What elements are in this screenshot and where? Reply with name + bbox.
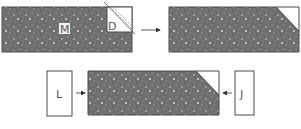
center-clipped-block [88,71,219,115]
label-l: L [56,88,63,101]
label-m: M [60,23,70,36]
step1-group: M D [2,2,135,52]
clipped-block [169,7,299,52]
step3-group: L J [47,71,254,116]
diagram-canvas: M D L J [0,0,301,129]
label-j: J [239,88,243,101]
label-d: D [108,20,116,33]
step2-group [169,7,299,52]
block-j [235,71,254,115]
